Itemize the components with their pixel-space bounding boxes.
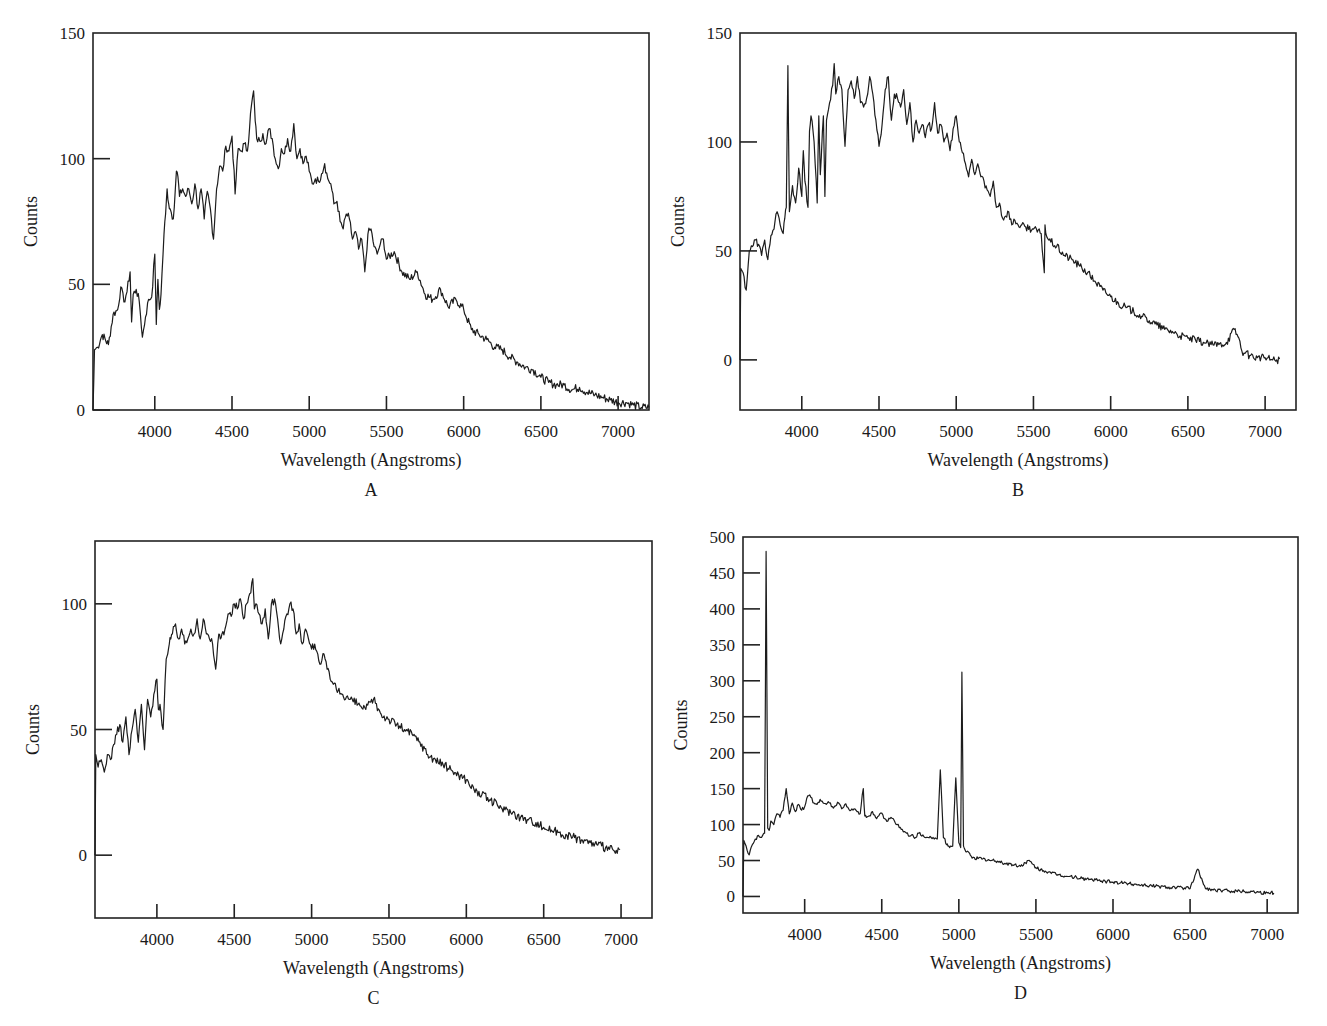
x-tick-label: 5500 — [1019, 925, 1053, 944]
y-tick-label: 400 — [710, 600, 736, 619]
x-tick-label: 6000 — [1096, 925, 1130, 944]
y-tick-label: 500 — [710, 528, 736, 547]
x-tick-label: 6500 — [1173, 925, 1207, 944]
y-tick-label: 200 — [710, 744, 736, 763]
spectrum-line — [743, 551, 1274, 896]
y-tick-label: 50 — [718, 852, 735, 871]
y-tick-label: 250 — [710, 708, 736, 727]
x-tick-label: 5000 — [942, 925, 976, 944]
y-tick-label: 0 — [727, 887, 736, 906]
x-tick-label: 7000 — [1250, 925, 1284, 944]
y-tick-label: 300 — [710, 672, 736, 691]
y-tick-label: 150 — [710, 780, 736, 799]
x-tick-label: 4000 — [788, 925, 822, 944]
x-tick-label: 4500 — [865, 925, 899, 944]
y-tick-label: 100 — [710, 816, 736, 835]
x-axis-label: Wavelength (Angstroms) — [930, 953, 1111, 974]
panel-label: D — [1014, 983, 1027, 1003]
y-axis-label: Counts — [671, 699, 691, 750]
y-tick-label: 350 — [710, 636, 736, 655]
y-tick-label: 450 — [710, 564, 736, 583]
plot-frame — [743, 537, 1298, 913]
spectrum-plot-d: 4000450050005500600065007000050100150200… — [0, 0, 1327, 1026]
